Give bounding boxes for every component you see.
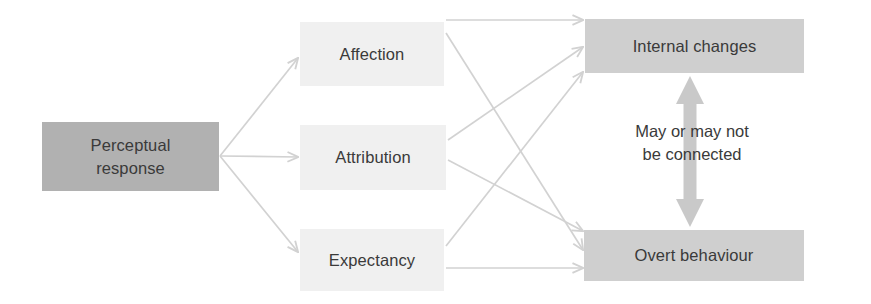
diagram-canvas: Perceptual response Affection Attributio…: [0, 0, 871, 304]
node-perceptual-response-label-line1: Perceptual: [91, 136, 171, 154]
node-affection: Affection: [300, 22, 444, 86]
edge-attribution-to-overt-behaviour: [448, 160, 583, 231]
edge-perceptual-to-attribution: [220, 156, 298, 157]
node-perceptual-response-label: Perceptual response: [91, 134, 171, 180]
annotation-line1: May or may not: [635, 122, 749, 140]
node-expectancy: Expectancy: [300, 229, 444, 291]
node-overt-behaviour: Overt behaviour: [584, 230, 804, 281]
node-internal-changes: Internal changes: [585, 19, 804, 73]
node-attribution: Attribution: [300, 125, 446, 190]
node-perceptual-response-label-line2: response: [96, 159, 165, 177]
edge-affection-to-overt-behaviour: [446, 33, 583, 250]
node-expectancy-label: Expectancy: [329, 249, 415, 272]
node-overt-behaviour-label: Overt behaviour: [635, 244, 754, 267]
node-attribution-label: Attribution: [335, 146, 410, 169]
node-internal-changes-label: Internal changes: [633, 35, 757, 58]
edge-perceptual-to-expectancy: [220, 156, 298, 252]
annotation-may-or-may-not: May or may not be connected: [612, 120, 772, 167]
annotation-line2: be connected: [642, 145, 741, 163]
edge-attribution-to-internal-changes: [448, 47, 583, 140]
node-affection-label: Affection: [340, 43, 405, 66]
node-perceptual-response: Perceptual response: [42, 122, 219, 191]
edge-perceptual-to-affection: [220, 58, 298, 156]
